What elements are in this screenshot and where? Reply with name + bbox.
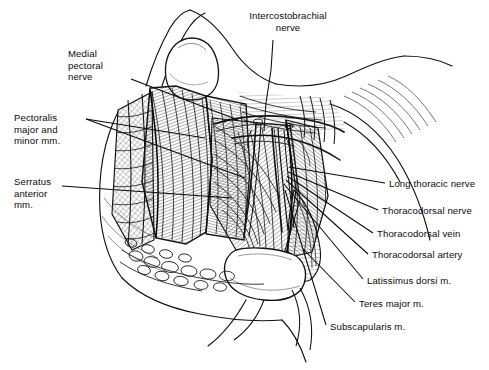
label-pectoralis-major-and-minor: Pectoralis major and minor mm. <box>14 112 96 147</box>
label-subscapularis: Subscapularis m. <box>330 321 405 333</box>
label-thoracodorsal-nerve: Thoracodorsal nerve <box>382 205 472 217</box>
label-thoracodorsal-artery: Thoracodorsal artery <box>372 249 463 261</box>
label-intercostobrachial-nerve: Intercostobrachial nerve <box>228 10 348 33</box>
label-long-thoracic-nerve: Long thoracic nerve <box>389 178 475 190</box>
label-thoracodorsal-vein: Thoracodorsal vein <box>377 228 460 240</box>
label-latissimus-dorsi: Latissimus dorsi m. <box>367 275 451 287</box>
pectoralis-major <box>142 86 212 244</box>
label-serratus-anterior: Serratus anterior mm. <box>14 176 86 211</box>
label-teres-major: Teres major m. <box>359 298 424 310</box>
upper-arm-shading <box>344 76 436 142</box>
anatomical-illustration: Intercostobrachial nerve Medial pectoral… <box>0 0 489 370</box>
label-medial-pectoral-nerve: Medial pectoral nerve <box>68 48 140 83</box>
